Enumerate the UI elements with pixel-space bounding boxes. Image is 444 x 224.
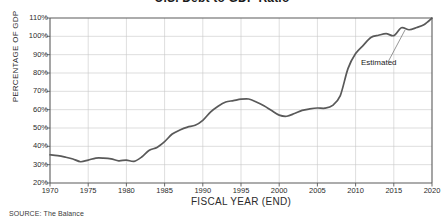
x-tick-label: 2005 bbox=[297, 187, 337, 195]
y-tick-label: 100% bbox=[18, 32, 48, 40]
x-tick-label: 1975 bbox=[68, 187, 108, 195]
x-tick-label: 1985 bbox=[145, 187, 185, 195]
x-tick-label: 1980 bbox=[106, 187, 146, 195]
x-tick-label: 2000 bbox=[259, 187, 299, 195]
source-note: SOURCE: The Balance bbox=[9, 210, 84, 217]
y-tick-label: 90% bbox=[18, 51, 48, 59]
x-tick-label: 2015 bbox=[374, 187, 414, 195]
x-tick-label: 1995 bbox=[221, 187, 261, 195]
chart-container: U.S. Debt to GDP Ratio PERCENTAGE OF GDP… bbox=[0, 0, 444, 224]
chart-title-strip: U.S. Debt to GDP Ratio bbox=[0, 0, 444, 7]
y-tick-label: 110% bbox=[18, 14, 48, 22]
y-tick-label: 80% bbox=[18, 69, 48, 77]
y-tick-label: 60% bbox=[18, 106, 48, 114]
y-tick-label: 70% bbox=[18, 87, 48, 95]
y-tick-label: 50% bbox=[18, 124, 48, 132]
x-tick-label: 1970 bbox=[30, 187, 70, 195]
y-tick-label: 30% bbox=[18, 161, 48, 169]
x-tick-label: 2020 bbox=[412, 187, 444, 195]
chart-title: U.S. Debt to GDP Ratio bbox=[0, 0, 444, 5]
x-tick-label: 2010 bbox=[336, 187, 376, 195]
x-axis-title: FISCAL YEAR (END) bbox=[50, 196, 432, 207]
x-tick-label: 1990 bbox=[183, 187, 223, 195]
estimated-annotation-label: Estimated bbox=[361, 58, 397, 67]
y-tick-label: 40% bbox=[18, 142, 48, 150]
